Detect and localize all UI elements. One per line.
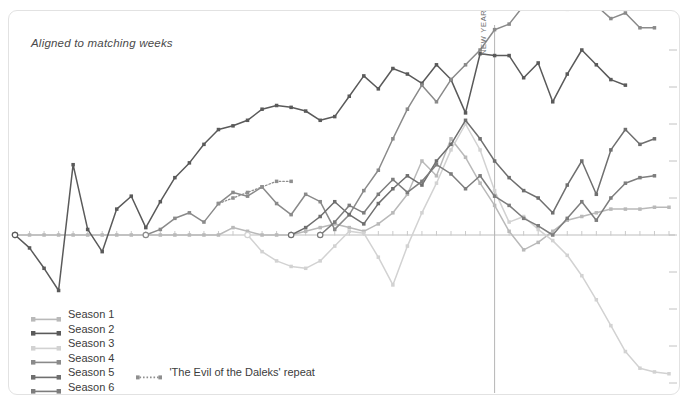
series-point-marker <box>391 211 395 215</box>
series-point-marker <box>130 233 134 237</box>
series-point-marker <box>595 193 599 197</box>
legend-item-gap-between-episodes[interactable]: Gap between episodes <box>31 394 315 395</box>
series-point-marker <box>580 48 584 52</box>
series-point-marker <box>275 180 279 184</box>
series-point-marker <box>667 372 671 376</box>
legend-item-season-2[interactable]: Season 2 <box>31 322 315 337</box>
series-point-marker <box>333 220 337 224</box>
legend-label: Season 2 <box>68 323 114 335</box>
series-point-marker <box>595 211 599 215</box>
series-point-marker <box>406 174 410 178</box>
legend-label: Season 5 <box>68 366 114 378</box>
series-point-marker <box>609 207 613 211</box>
series-point-marker <box>86 228 90 232</box>
series-point-marker <box>115 207 119 211</box>
series-point-marker <box>435 100 439 104</box>
series-point-marker <box>231 124 235 128</box>
series-point-marker <box>551 239 555 243</box>
series-point-marker <box>667 206 671 210</box>
series-point-marker <box>522 217 526 221</box>
series-point-marker <box>464 119 468 123</box>
series-point-marker <box>362 211 366 215</box>
series-point-marker <box>202 233 206 237</box>
legend-item-season-4[interactable]: Season 4 <box>31 351 315 366</box>
series-point-marker <box>624 83 628 87</box>
series-point-marker <box>638 366 642 370</box>
new-year-annotation: NEW YEAR <box>457 25 521 85</box>
series-point-marker <box>304 109 308 113</box>
chart-card: Aligned to matching weeks NEW YEAR Seaso… <box>8 10 680 395</box>
series-point-marker <box>130 194 134 198</box>
legend-label: 'The Evil of the Daleks' repeat <box>169 366 314 378</box>
series-point-marker <box>100 233 104 237</box>
series-point-marker <box>580 215 584 219</box>
series-point-marker <box>435 181 439 185</box>
series-point-marker <box>580 274 584 278</box>
series-point-marker <box>536 224 540 228</box>
series-point-marker <box>566 254 570 258</box>
series-point-marker <box>188 233 192 237</box>
series-point-marker <box>638 207 642 211</box>
series-point-marker <box>57 233 61 237</box>
series-point-marker <box>449 172 453 176</box>
series-point-marker <box>507 230 511 234</box>
new-year-label: NEW YEAR <box>479 10 488 55</box>
legend-item-season-5[interactable]: Season 5'The Evil of the Daleks' repeat <box>31 365 315 380</box>
series-point-marker <box>260 250 264 254</box>
series-point-marker <box>115 233 119 237</box>
series-point-marker <box>435 174 439 178</box>
series-point-marker <box>246 119 250 123</box>
series-point-marker <box>173 217 177 221</box>
series-point-marker <box>377 222 381 226</box>
series-point-marker <box>231 191 235 195</box>
legend-item-season-3[interactable]: Season 3 <box>31 336 315 351</box>
series-point-marker <box>522 76 526 80</box>
series-point-marker <box>231 226 235 230</box>
series-point-marker <box>493 159 497 163</box>
series-point-marker <box>217 128 221 132</box>
series-point-marker <box>609 324 613 328</box>
series-point-marker <box>566 72 570 76</box>
series-point-marker <box>377 193 381 197</box>
series-point-marker <box>333 228 337 232</box>
series-point-marker <box>609 196 613 200</box>
series-point-marker <box>522 189 526 193</box>
series-point-marker <box>420 159 424 163</box>
series-point-marker <box>173 176 177 180</box>
series-point-marker <box>71 163 75 167</box>
series-point-marker <box>580 159 584 163</box>
series-point-marker <box>624 11 628 15</box>
series-point-marker <box>566 183 570 187</box>
series-point-marker <box>348 95 352 99</box>
series-point-marker <box>595 218 599 222</box>
series-point-marker <box>536 241 540 245</box>
series-point-marker <box>435 163 439 167</box>
series-start-marker <box>12 232 17 237</box>
series-point-marker <box>464 187 468 191</box>
legend-swatch <box>31 382 61 391</box>
series-point-marker <box>391 283 395 287</box>
legend-item-season-6[interactable]: Season 6 <box>31 380 315 395</box>
series-point-marker <box>653 206 657 210</box>
legend-item-season-1[interactable]: Season 1 <box>31 307 315 322</box>
series-point-marker <box>275 233 279 237</box>
series-point-marker <box>202 220 206 224</box>
series-point-marker <box>159 200 163 204</box>
series-point-marker <box>638 26 642 30</box>
series-point-marker <box>420 83 424 87</box>
series-point-marker <box>188 161 192 165</box>
series-point-marker <box>100 250 104 254</box>
series-point-marker <box>173 233 177 237</box>
series-point-marker <box>536 61 540 64</box>
legend-label: Season 6 <box>68 381 114 393</box>
series-line <box>320 165 654 235</box>
series-point-marker <box>478 148 482 152</box>
series-point-marker <box>420 180 424 184</box>
series-line <box>15 139 669 250</box>
series-point-marker <box>638 143 642 147</box>
series-point-marker <box>536 228 540 232</box>
series-point-marker <box>377 169 381 173</box>
legend-swatch <box>31 310 61 319</box>
legend-item-evil-of-the-daleks-repeat[interactable]: 'The Evil of the Daleks' repeat <box>136 366 314 378</box>
series-point-marker <box>449 137 453 141</box>
